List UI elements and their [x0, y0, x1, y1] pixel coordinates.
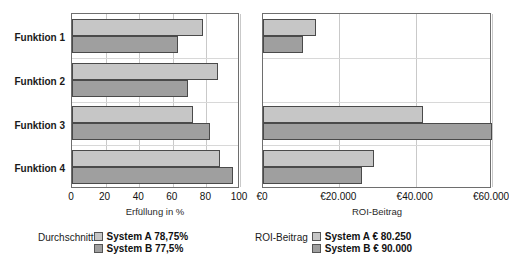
gridline [492, 14, 493, 187]
left-category-label-3: Funktion 3 [0, 120, 68, 131]
bar-system-b [72, 123, 210, 140]
right-legend-label-system-b: System B € 90.000 [325, 243, 412, 254]
right-legend-row-system-a: System A € 80.250 [312, 231, 412, 242]
x-tick-label: 100 [231, 191, 248, 202]
legend-swatch-series-b-icon [94, 244, 103, 253]
left-category-label-2: Funktion 2 [0, 76, 68, 87]
right-legend: ROI-Beitrag System A € 80.250 System B €… [255, 231, 412, 254]
x-tick-label: €0 [256, 191, 267, 202]
right-plot-area [262, 13, 491, 188]
bar-system-b [72, 36, 178, 53]
left-legend-label-system-a: System A 78,75% [107, 231, 189, 242]
right-legend-row-system-b: System B € 90.000 [312, 243, 412, 254]
left-legend-caption: Durchschnitt [38, 231, 94, 243]
left-plot-area [71, 13, 239, 188]
category-separator [263, 58, 490, 59]
left-category-label-1: Funktion 1 [0, 32, 68, 43]
x-tick-label: 20 [99, 191, 110, 202]
legend-swatch-series-b-icon [312, 244, 321, 253]
left-axis-title: Erfüllung in % [126, 206, 185, 217]
legend-swatch-series-a-icon [312, 232, 321, 241]
gridline [416, 14, 417, 187]
category-separator [72, 102, 238, 103]
left-legend-label-system-b: System B 77,5% [107, 243, 184, 254]
x-tick-label: 80 [200, 191, 211, 202]
bar-system-a [263, 106, 423, 123]
bar-system-a [72, 63, 218, 80]
bar-system-a [72, 150, 220, 167]
left-legend-row-system-a: System A 78,75% [94, 231, 189, 242]
bar-system-a [72, 19, 203, 36]
bar-system-b [263, 123, 492, 140]
left-legend: Durchschnitt System A 78,75% System B 77… [38, 231, 188, 254]
x-tick-label: €60.000 [473, 191, 509, 202]
category-separator [72, 58, 238, 59]
bar-system-a [263, 19, 316, 36]
x-tick-label: 60 [166, 191, 177, 202]
category-separator [72, 145, 238, 146]
gridline [240, 14, 241, 187]
bar-system-b [72, 80, 188, 97]
x-tick-label: €20.000 [320, 191, 356, 202]
right-chart-panel: €0€20.000€40.000€60.000 ROI-Beitrag ROI-… [252, 0, 504, 271]
right-axis-title: ROI-Beitrag [352, 206, 402, 217]
left-legend-row-system-b: System B 77,5% [94, 243, 189, 254]
right-legend-caption: ROI-Beitrag [255, 231, 308, 243]
legend-swatch-series-a-icon [94, 232, 103, 241]
bar-system-b [263, 167, 362, 184]
bar-system-b [263, 36, 303, 53]
bar-system-a [263, 150, 374, 167]
x-tick-label: €40.000 [397, 191, 433, 202]
bar-system-b [72, 167, 233, 184]
category-separator [263, 102, 490, 103]
bar-system-a [72, 106, 193, 123]
category-separator [263, 145, 490, 146]
left-category-label-4: Funktion 4 [0, 163, 68, 174]
right-legend-label-system-a: System A € 80.250 [325, 231, 412, 242]
x-tick-label: 40 [133, 191, 144, 202]
left-chart-panel: Funktion 1 Funktion 2 Funktion 3 Funktio… [0, 0, 252, 271]
x-tick-label: 0 [68, 191, 74, 202]
